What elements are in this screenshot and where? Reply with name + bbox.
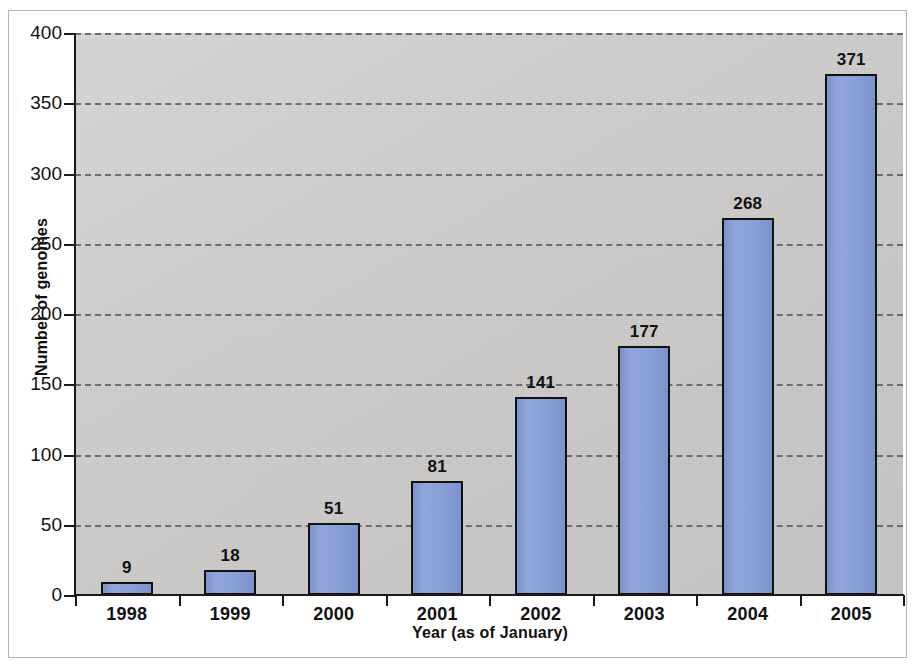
y-axis-tick-100: [64, 455, 75, 457]
y-axis-tick-label: 50: [4, 514, 62, 536]
gridline-50: [75, 525, 903, 527]
y-axis-tick-label: 250: [4, 233, 62, 255]
bar-chart-figure: Number of genomes 0501001502002503003504…: [0, 0, 919, 666]
bar: [722, 218, 774, 595]
y-axis-tick-label: 350: [4, 92, 62, 114]
bar-value-label: 18: [178, 546, 282, 566]
bar-value-label: 81: [385, 457, 489, 477]
bar-value-label: 268: [696, 194, 800, 214]
y-axis-tick-50: [64, 525, 75, 527]
x-axis-tick-label: 2003: [592, 604, 696, 625]
bar: [411, 481, 463, 595]
x-axis-tick-label: 1999: [178, 604, 282, 625]
x-axis-tick-label: 2004: [696, 604, 800, 625]
x-axis-tick-label: 2005: [799, 604, 903, 625]
bar: [618, 346, 670, 595]
gridline-200: [75, 314, 903, 316]
x-axis-tick-label: 2001: [385, 604, 489, 625]
bar: [204, 570, 256, 595]
y-axis-tick-300: [64, 174, 75, 176]
bar: [308, 523, 360, 595]
x-axis-tick-8: [903, 595, 905, 606]
x-axis-tick-label: 1998: [75, 604, 179, 625]
y-axis-tick-0: [64, 595, 75, 597]
x-axis-tick-label: 2000: [282, 604, 386, 625]
y-axis-tick-label: 400: [4, 22, 62, 44]
bar-value-label: 9: [75, 558, 179, 578]
gridline-100: [75, 455, 903, 457]
y-axis-tick-400: [64, 33, 75, 35]
gridline-300: [75, 174, 903, 176]
y-axis-tick-label: 100: [4, 444, 62, 466]
gridline-350: [75, 103, 903, 105]
gridline-250: [75, 244, 903, 246]
bar: [825, 74, 877, 595]
bar-value-label: 371: [799, 50, 903, 70]
y-axis-tick-label: 200: [4, 303, 62, 325]
plot-area: [75, 33, 903, 595]
y-axis-tick-label: 0: [4, 584, 62, 606]
gridline-400: [75, 33, 903, 35]
y-axis-tick-250: [64, 244, 75, 246]
y-axis-tick-150: [64, 384, 75, 386]
y-axis-tick-label: 300: [4, 163, 62, 185]
bar: [515, 397, 567, 595]
bar-value-label: 141: [489, 373, 593, 393]
bar-value-label: 177: [592, 322, 696, 342]
x-axis-tick-label: 2002: [489, 604, 593, 625]
y-axis-tick-labels-group: 050100150200250300350400: [0, 0, 62, 666]
y-axis-tick-350: [64, 103, 75, 105]
x-axis-title: Year (as of January): [75, 624, 905, 642]
bar-value-label: 51: [282, 499, 386, 519]
y-axis-tick-200: [64, 314, 75, 316]
y-axis-tick-label: 150: [4, 373, 62, 395]
